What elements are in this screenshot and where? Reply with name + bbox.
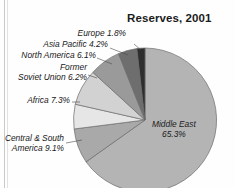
slice-label-middle-east: Middle East 65.3%	[152, 120, 196, 139]
pie-chart-figure: Reserves, 2001 Europe 1.8% Asia Pacific …	[0, 0, 235, 188]
slice-label-europe: Europe 1.8%	[78, 29, 126, 39]
slice-label-north-america: North America 6.1%	[21, 51, 96, 61]
slice-label-asia-pacific: Asia Pacific 4.2%	[43, 40, 108, 50]
slice-label-europe-text: Europe 1.8%	[78, 28, 126, 38]
slice-label-asia-pacific-text: Asia Pacific 4.2%	[43, 39, 108, 49]
slice-label-africa: Africa 7.3%	[27, 96, 70, 106]
slice-label-north-america-text: North America 6.1%	[21, 50, 96, 60]
slice-label-central-south-america-line2: America 9.1%	[5, 144, 64, 154]
slice-label-middle-east-line2: 65.3%	[152, 130, 196, 140]
slice-label-former-soviet-union-line2: Soviet Union 6.2%	[18, 73, 87, 83]
slice-label-former-soviet-union: Former Soviet Union 6.2%	[18, 63, 87, 82]
slice-label-central-south-america: Central & South America 9.1%	[5, 134, 64, 153]
slice-label-africa-text: Africa 7.3%	[27, 95, 70, 105]
